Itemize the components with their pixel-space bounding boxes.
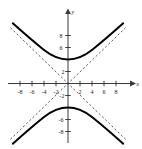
x-tick-label-pos2: 2 (79, 89, 82, 95)
x-tick-label-neg4: -4 (42, 89, 47, 95)
x-tick-label-neg2: -2 (54, 89, 59, 95)
x-tick-label-pos8: 8 (115, 89, 118, 95)
plot-canvas: -8 -6 -4 -2 2 4 6 8 x 8 6 2 -2 (0, 0, 142, 149)
x-tick-label-pos4: 4 (91, 89, 94, 95)
y-tick-label-pos2: 2 (62, 69, 65, 75)
y-tick-label-neg6: -6 (59, 117, 64, 123)
y-axis-title: y (71, 9, 75, 15)
x-tick-label-neg6: -6 (30, 89, 35, 95)
y-tick-label-neg2: -2 (60, 93, 65, 99)
x-axis-title: x (135, 81, 139, 87)
x-tick-label-neg8: -8 (18, 89, 23, 95)
y-tick-label-pos6: 6 (60, 45, 63, 51)
y-tick-label-pos8: 8 (60, 33, 63, 39)
x-tick-label-pos6: 6 (103, 89, 106, 95)
hyperbola-graph-figure: -8 -6 -4 -2 2 4 6 8 x 8 6 2 -2 (0, 0, 142, 149)
figure-background (0, 0, 142, 149)
y-tick-label-neg8: -8 (59, 129, 64, 135)
